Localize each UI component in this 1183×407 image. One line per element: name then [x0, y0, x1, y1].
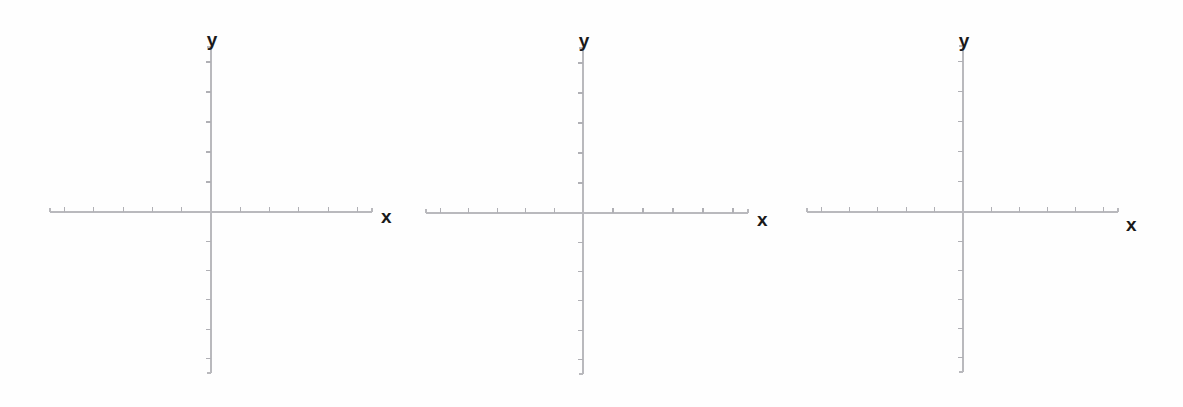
axes-drawing-3: [0, 0, 1183, 407]
y-axis-label-3: y: [959, 31, 970, 50]
x-axis-label-3: x: [1126, 215, 1137, 234]
